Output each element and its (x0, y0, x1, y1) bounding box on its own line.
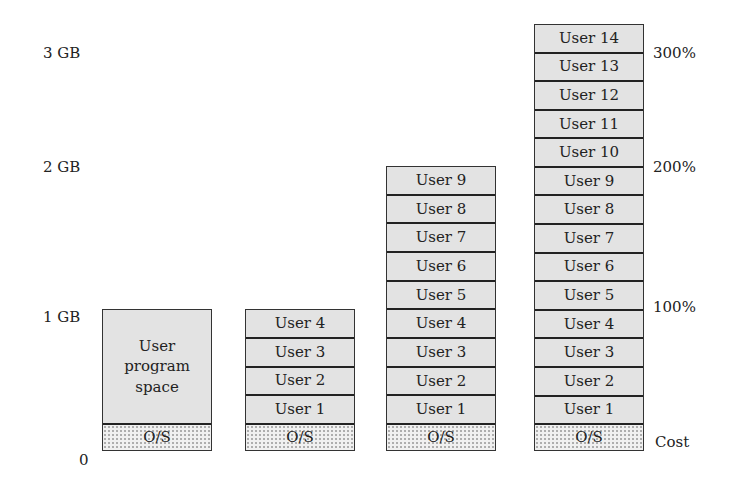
user-block: User 5 (387, 280, 495, 309)
memory-column-1: User program space O/S (102, 309, 212, 451)
user-block: User 3 (246, 337, 354, 366)
cost-label: Cost (655, 435, 689, 450)
user-block: User 5 (535, 280, 643, 309)
memory-column-3: User 9 User 8 User 7 User 6 User 5 User … (386, 166, 496, 451)
user-block: User 4 (246, 310, 354, 337)
user-block: User 7 (535, 223, 643, 252)
user-block: User 2 (387, 366, 495, 395)
user-block: User 2 (535, 366, 643, 395)
y-label-2gb: 2 GB (43, 160, 80, 175)
y-label-1gb: 1 GB (43, 310, 80, 325)
user-block: User 8 (387, 194, 495, 223)
user-block: User 4 (535, 309, 643, 338)
user-block: User 9 (535, 166, 643, 195)
user-block: User 1 (535, 395, 643, 424)
os-block: O/S (387, 423, 495, 450)
y-label-3gb: 3 GB (43, 46, 80, 61)
cost-label-300: 300% (653, 46, 696, 61)
user-block: User 13 (535, 52, 643, 81)
memory-column-2: User 4 User 3 User 2 User 1 O/S (245, 309, 355, 451)
user-block: User 4 (387, 308, 495, 337)
y-label-0: 0 (79, 453, 89, 468)
memory-column-4: User 14 User 13 User 12 User 11 User 10 … (534, 24, 644, 451)
user-block: User 3 (387, 337, 495, 366)
user-block: User 1 (387, 394, 495, 423)
user-block: User 9 (387, 167, 495, 194)
os-block: O/S (246, 423, 354, 450)
user-block: User 10 (535, 137, 643, 166)
user-block: User 2 (246, 366, 354, 395)
user-program-space: User program space (103, 310, 211, 423)
cost-label-200: 200% (653, 160, 696, 175)
user-block: User 7 (387, 222, 495, 251)
os-block: O/S (103, 423, 211, 450)
user-block: User 8 (535, 194, 643, 223)
os-block: O/S (535, 423, 643, 450)
user-block: User 6 (387, 251, 495, 280)
cost-label-100: 100% (653, 300, 696, 315)
user-block: User 6 (535, 252, 643, 281)
user-block: User 1 (246, 394, 354, 423)
user-block: User 11 (535, 109, 643, 138)
user-block: User 3 (535, 337, 643, 366)
user-block: User 12 (535, 80, 643, 109)
user-block: User 14 (535, 25, 643, 52)
